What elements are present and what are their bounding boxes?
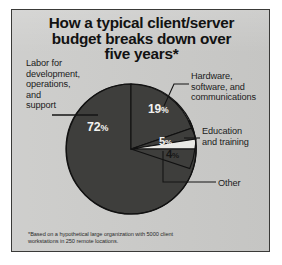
chart-footnote: *Based on a hypothetical large organizat… [28, 231, 256, 245]
figure-root: How a typical client/server budget break… [0, 0, 282, 265]
chart-panel: How a typical client/server budget break… [11, 9, 270, 252]
percent-symbol: % [100, 123, 108, 133]
annotation-education: Education and training [202, 126, 266, 147]
pie-label-other-light: 4% [166, 148, 179, 160]
percent-symbol: % [172, 151, 179, 160]
pie-label-labor-value: 72 [87, 120, 100, 134]
annotation-labor: Labor for development, operations, and s… [26, 58, 90, 111]
pie-label-hardware: 19% [148, 102, 168, 116]
percent-symbol: % [165, 138, 172, 147]
pie-label-hardware-value: 19 [148, 102, 161, 116]
pie-label-education: 5% [159, 135, 172, 147]
chart-stage: 72% 19% 5% 4% Labor for development, ope… [12, 10, 269, 251]
annotation-hardware: Hardware, software, and communications [191, 71, 265, 103]
percent-symbol: % [161, 105, 168, 115]
pie-label-labor: 72% [87, 120, 108, 134]
annotation-other: Other [218, 178, 262, 189]
